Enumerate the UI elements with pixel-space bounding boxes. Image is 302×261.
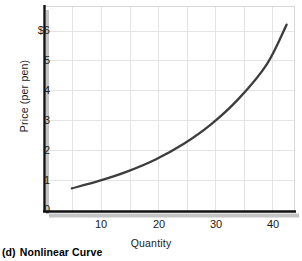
caption-text: Nonlinear Curve [20, 246, 103, 258]
y-tick-label-1: 1 [4, 175, 50, 186]
plot-background [44, 6, 295, 212]
x-tick-label-30: 30 [196, 219, 236, 230]
figure-caption: (d)Nonlinear Curve [2, 246, 102, 258]
y-axis-title: Price (per pen) [18, 26, 30, 166]
x-tick-label-20: 20 [139, 219, 179, 230]
x-tick-label-40: 40 [253, 219, 293, 230]
y-tick-label-0: 0 [4, 204, 50, 215]
figure-nonlinear-curve: $6 5 4 3 2 1 0 10 20 30 40 Price (per pe… [0, 0, 302, 261]
caption-number: (d) [2, 246, 16, 258]
x-tick-label-10: 10 [81, 219, 121, 230]
